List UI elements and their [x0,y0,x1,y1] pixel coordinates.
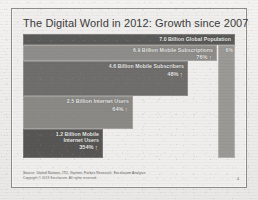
bar-label-mobile-subscribers: 4.6 Billion Mobile Subscribers [109,63,184,69]
up-arrow-icon: ↑ [209,55,213,60]
up-arrow-icon: ↑ [125,107,129,112]
global-population-growth-column: 6% [218,45,235,158]
growth-pct-value-mobile-subscribers: 48% [167,71,178,77]
nested-bar-chart: 7.0 Billion Global Population 6.9 Billio… [23,34,235,158]
growth-pct-value-internet-users: 64% [112,106,123,112]
growth-pct-global-population: 6% [219,47,233,53]
copyright-note: Copyright © 2013 Excelacom. All rights r… [23,176,223,181]
bar-label-mobile-internet-users: 1.2 Billion Mobile Internet Users [56,131,99,143]
growth-pct-mobile-subscriptions: 76%↑ [196,54,212,60]
growth-pct-value-mobile-internet-users: 354% [79,144,93,150]
growth-pct-value-global-population: 6% [226,47,234,53]
slide-footer: Source: United Nations, ITU, Gartner, Fo… [23,171,223,181]
growth-pct-internet-users: 64%↑ [112,106,128,112]
bar-mobile-internet-users: 1.2 Billion Mobile Internet Users 354%↑ [23,129,103,158]
up-arrow-icon: ↑ [180,72,184,77]
growth-pct-mobile-internet-users: 354%↑ [79,144,98,150]
slide-page-number: 4 [237,177,239,181]
up-arrow-icon: ↑ [95,145,99,150]
bar-label-internet-users: 2.5 Billion Internet Users [67,98,129,104]
bar-label-global-population: 7.0 Billion Global Population [159,36,231,42]
page-title: The Digital World in 2012: Growth since … [23,17,249,29]
growth-pct-value-mobile-subscriptions: 76% [196,54,207,60]
presentation-slide: The Digital World in 2012: Growth since … [11,8,247,188]
bar-global-population: 7.0 Billion Global Population [23,34,235,45]
bar-mobile-subscribers: 4.6 Billion Mobile Subscribers 48%↑ [23,61,188,96]
bar-label-mobile-subscriptions: 6.9 Billion Mobile Subscriptions [133,47,213,53]
screenshot-root: the time series ... The Digital World in… [0,0,258,200]
growth-pct-mobile-subscribers: 48%↑ [167,71,183,77]
bar-internet-users: 2.5 Billion Internet Users 64%↑ [23,96,133,129]
bar-mobile-subscriptions: 6.9 Billion Mobile Subscriptions 76%↑ [23,45,217,61]
